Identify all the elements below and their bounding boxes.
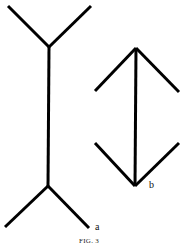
figure-a-top-right-fin [49,6,91,47]
figure-b-bottom-right-fin [135,143,179,186]
figure-a-bottom-right-fin [48,186,89,228]
figure-caption: FIG. 3 [79,238,99,245]
figure-b-shaft [135,48,136,186]
label-a: a [95,222,99,232]
figure-b-top-right-fin [136,48,179,92]
figure-b-top-left-fin [95,48,136,91]
label-b: b [149,180,154,190]
figure-a-shaft [48,47,49,186]
muller-lyer-diagram [0,0,181,248]
figure-a [5,6,91,228]
figure-a-bottom-left-fin [5,186,48,227]
figure-a-top-left-fin [8,6,49,47]
figure-b [95,48,179,186]
figure-b-bottom-left-fin [95,143,135,186]
